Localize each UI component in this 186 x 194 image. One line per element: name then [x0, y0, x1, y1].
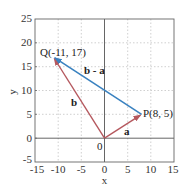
svg-text:-15: -15 [30, 163, 45, 175]
svg-text:10: 10 [145, 163, 157, 175]
svg-text:-5: -5 [77, 163, 87, 175]
svg-text:0: 0 [27, 132, 33, 144]
x-axis-label: x [102, 174, 108, 186]
point-q-label: Q(-11, 17) [40, 46, 86, 59]
svg-text:10: 10 [21, 84, 33, 96]
svg-text:15: 15 [21, 60, 33, 72]
vector-a-label: a [124, 125, 130, 137]
origin-label: 0 [97, 140, 103, 152]
svg-text:5: 5 [125, 163, 131, 175]
svg-text:20: 20 [21, 36, 33, 48]
y-tick-labels: 25 20 15 10 5 0 -5 [21, 12, 33, 165]
vector-chart: 25 20 15 10 5 0 -5 -15 -10 -5 0 5 10 15 … [0, 0, 186, 194]
svg-text:25: 25 [21, 12, 33, 24]
vector-a [105, 115, 141, 138]
vector-b-minus-a-label: b - a [84, 64, 105, 76]
svg-text:5: 5 [27, 108, 33, 120]
vector-b-label: b [71, 96, 77, 108]
svg-text:15: 15 [168, 163, 180, 175]
svg-text:-10: -10 [51, 163, 66, 175]
y-axis-label: y [6, 89, 18, 95]
point-p-label: P(8, 5) [143, 107, 173, 120]
